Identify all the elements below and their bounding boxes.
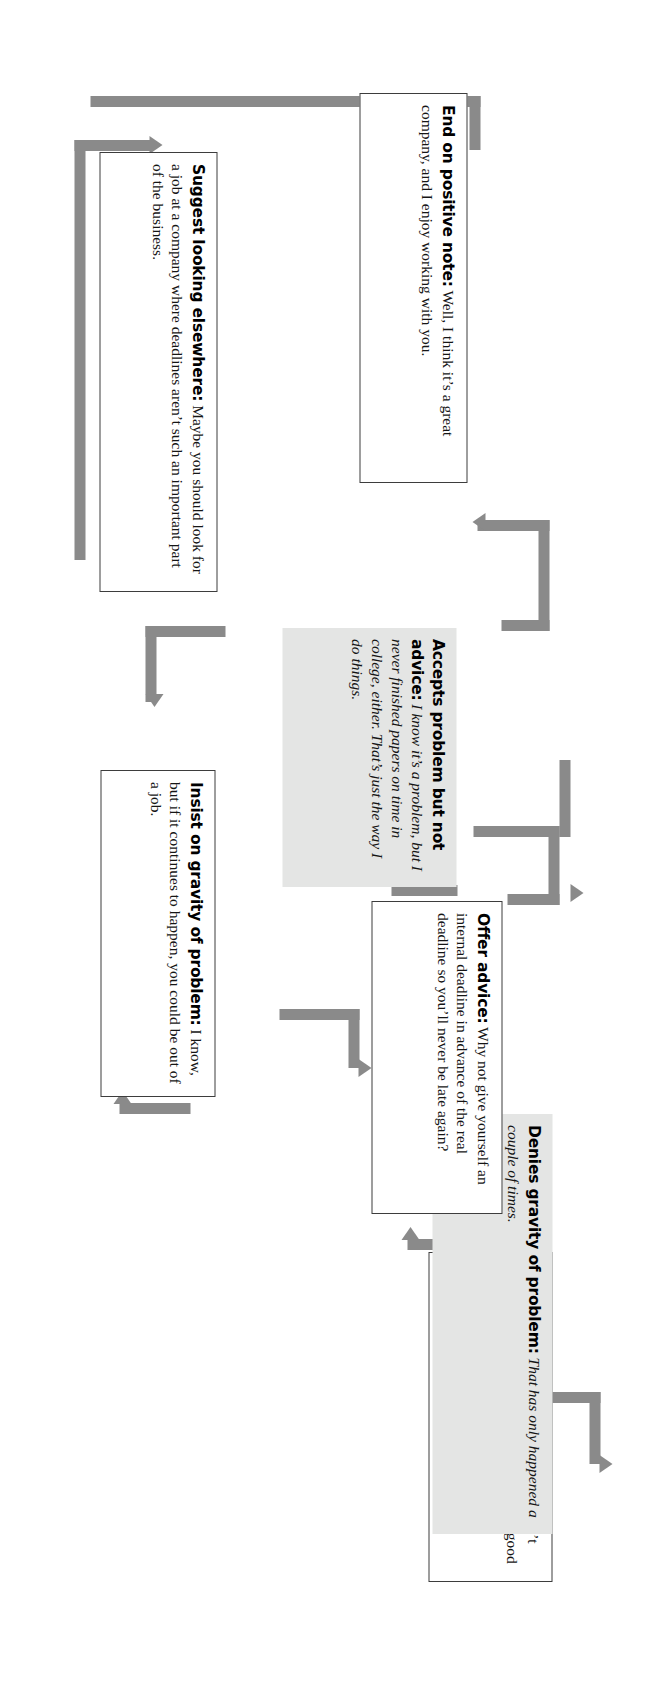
edge-accepts-suggest-arrowhead <box>145 694 163 707</box>
edge-suggest-end-seg1 <box>74 140 85 560</box>
node-accepts-problem-but-not-advice[interactable]: Accepts problem but not advice: I know i… <box>282 628 456 887</box>
node-end-heading: End on positive note: <box>438 105 456 287</box>
node-denies-heading: Denies gravity of problem: <box>524 1125 542 1354</box>
edge-suggest-end-seg2 <box>74 140 150 151</box>
edge-loop-to-offer-arrowhead <box>570 884 583 902</box>
edge-insist-suggest-arrowhead <box>472 513 485 531</box>
node-insist-heading: Insist on gravity of problem: <box>186 782 204 1026</box>
edge-insist-suggest-seg3 <box>477 520 549 531</box>
edge-insist-offer-seg1 <box>279 1009 359 1020</box>
flowchart-canvas: Focus her on real problem: I didn’t real… <box>0 0 645 1684</box>
node-suggest-heading: Suggest looking elsewhere: <box>188 164 206 401</box>
edge-loop-to-offer-seg3 <box>507 894 559 905</box>
edge-accepts-suggest-seg1 <box>145 626 225 637</box>
edge-insist-offer-arrowhead <box>358 1059 371 1077</box>
edge-loop-to-offer-seg1 <box>473 826 559 837</box>
edge-loop-to-offer-seg4 <box>559 760 570 837</box>
edge-focus-denies-arrowhead <box>401 1227 419 1240</box>
node-end-on-positive-note[interactable]: End on positive note: Well, I think it’s… <box>359 93 467 483</box>
edge-insist-suggest-seg2 <box>538 520 549 631</box>
node-offer-advice[interactable]: Offer advice: Why not give yourself an i… <box>371 901 502 1214</box>
node-suggest-looking-elsewhere[interactable]: Suggest looking elsewhere: Maybe you sho… <box>99 152 217 592</box>
edge-entry-focus-arrowhead <box>599 1455 612 1473</box>
edge-exit-rail-stub <box>469 96 480 150</box>
node-offer-heading: Offer advice: <box>473 913 491 1024</box>
node-insist-on-gravity-of-problem[interactable]: Insist on gravity of problem: I know, bu… <box>100 770 215 1097</box>
edge-denies-insist-seg1 <box>119 1103 190 1114</box>
edge-accepts-suggest-seg2 <box>145 626 156 702</box>
edge-insist-offer-seg2 <box>348 1009 359 1068</box>
